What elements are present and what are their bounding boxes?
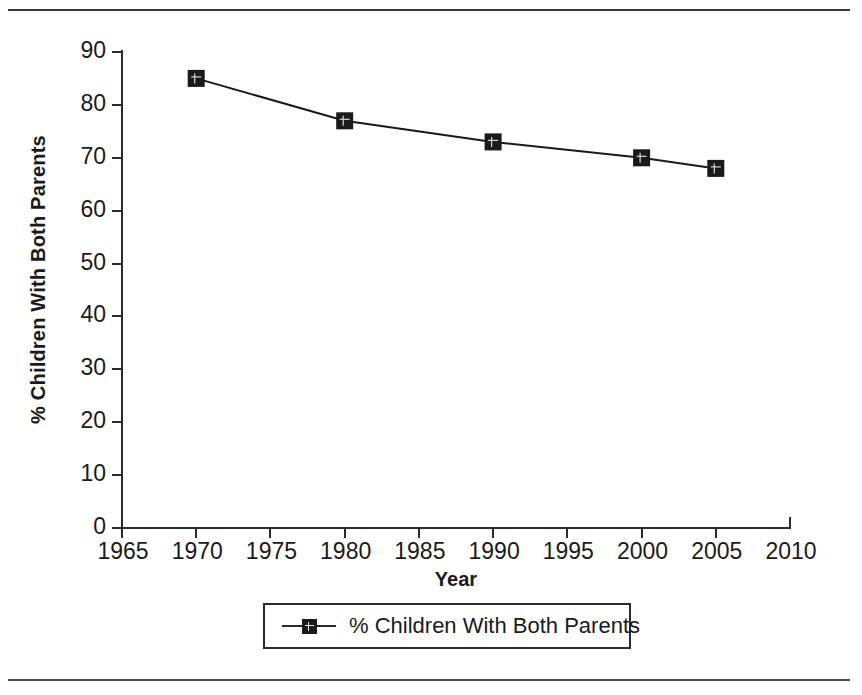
legend-marker-square-icon (302, 619, 317, 634)
legend-entry: % Children With Both Parents (265, 614, 640, 638)
chart-legend: % Children With Both Parents (263, 603, 631, 649)
legend-entry-label: % Children With Both Parents (336, 614, 640, 638)
line-chart-figure: 0102030405060708090 19651970197519801985… (0, 0, 862, 695)
data-point-marker (337, 113, 352, 128)
data-point-marker (634, 150, 649, 165)
legend-line-square-marker-icon (282, 617, 336, 635)
data-point-marker (708, 161, 723, 176)
data-point-marker (486, 134, 501, 149)
data-point-marker (189, 71, 204, 86)
data-series-layer (0, 0, 862, 695)
